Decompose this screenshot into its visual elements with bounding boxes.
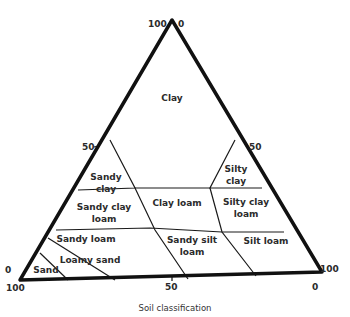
label-clay-loam: Clay loam [152, 198, 201, 208]
tick-bottom-mid: 50 [165, 282, 178, 292]
label-silty-clay-2: clay [226, 176, 246, 186]
label-sandy-clay-2: clay [96, 184, 116, 194]
label-sandy-silt-loam-2: loam [180, 247, 205, 257]
figure-caption: Soil classification [0, 303, 350, 313]
soil-triangle-diagram: 100 0 50 50 0 100 50 100 0 Clay Sandy cl… [0, 0, 350, 317]
label-silty-clay-1: Silty [225, 164, 248, 174]
tick-left-bottom-below: 100 [6, 283, 25, 293]
tick-left-bottom-side: 0 [5, 265, 11, 275]
loam-horizontal-line [56, 228, 284, 232]
label-sand: Sand [33, 265, 58, 275]
tick-left-mid: 50 [82, 142, 95, 152]
tick-right-bottom-side: 100 [320, 264, 339, 274]
label-sandy-loam: Sandy loam [56, 234, 115, 244]
label-sandy-clay-loam-2: loam [92, 214, 117, 224]
tick-top-left: 100 [148, 19, 167, 29]
label-silty-clay-loam-1: Silty clay [223, 197, 269, 207]
tick-right-bottom-below: 0 [312, 282, 318, 292]
label-loamy-sand: Loamy sand [60, 255, 121, 265]
label-silty-clay-loam-2: loam [234, 209, 259, 219]
tick-right-mid: 50 [249, 142, 262, 152]
label-silt-loam: Silt loam [244, 236, 289, 246]
tick-top-right: 0 [178, 19, 184, 29]
label-sandy-silt-loam-1: Sandy silt [167, 235, 218, 245]
label-sandy-clay-loam-1: Sandy clay [77, 202, 132, 212]
label-sandy-clay-1: Sandy [90, 172, 121, 182]
label-clay: Clay [161, 93, 182, 103]
